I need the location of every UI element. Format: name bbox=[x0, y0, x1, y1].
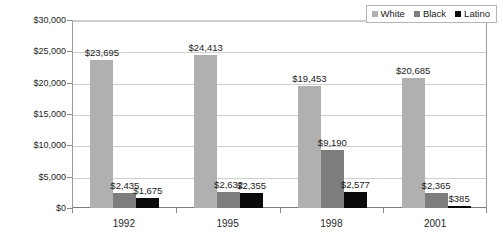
legend-item-latino[interactable]: Latino bbox=[455, 9, 490, 19]
bar-value-label: $2,365 bbox=[415, 180, 458, 191]
bar-value-label: $9,190 bbox=[311, 137, 354, 148]
legend-item-black[interactable]: Black bbox=[414, 9, 446, 19]
bar-value-label: $385 bbox=[438, 193, 481, 204]
x-axis-label-1995: 1995 bbox=[176, 218, 280, 229]
x-axis-label-1998: 1998 bbox=[280, 218, 384, 229]
bar-latino-1998[interactable] bbox=[344, 192, 367, 208]
bar-value-label: $20,685 bbox=[392, 65, 435, 76]
bar-value-label: $19,453 bbox=[288, 73, 331, 84]
x-axis-tick-mark bbox=[72, 208, 73, 213]
legend-swatch-icon bbox=[455, 11, 461, 17]
bar-group: $24,413$2,632$2,355 bbox=[177, 21, 281, 208]
legend-label: Latino bbox=[464, 9, 490, 19]
x-axis-tick-mark bbox=[176, 208, 177, 213]
legend: WhiteBlackLatino bbox=[366, 5, 497, 23]
y-axis: $0$5,000$10,000$15,000$20,000$25,000$30,… bbox=[0, 20, 72, 208]
bar-latino-1995[interactable] bbox=[240, 193, 263, 208]
legend-swatch-icon bbox=[414, 11, 420, 17]
y-axis-tick-label: $0 bbox=[0, 203, 66, 213]
legend-swatch-icon bbox=[372, 11, 378, 17]
plot-area: $23,695$2,435$1,675$24,413$2,632$2,355$1… bbox=[72, 20, 487, 208]
legend-label: White bbox=[381, 9, 405, 19]
y-axis-tick-label: $30,000 bbox=[0, 15, 66, 25]
bar-group: $23,695$2,435$1,675 bbox=[73, 21, 177, 208]
legend-item-white[interactable]: White bbox=[372, 9, 405, 19]
bar-black-1995[interactable] bbox=[217, 192, 240, 208]
bar-latino-1992[interactable] bbox=[136, 198, 159, 208]
x-axis-label-2001: 2001 bbox=[383, 218, 487, 229]
y-axis-tick-label: $10,000 bbox=[0, 140, 66, 150]
bar-group: $19,453$9,190$2,577 bbox=[281, 21, 385, 208]
x-axis-label-1992: 1992 bbox=[72, 218, 176, 229]
x-axis-tick-mark bbox=[486, 208, 487, 213]
bar-group: $20,685$2,365$385 bbox=[384, 21, 488, 208]
x-axis-tick-mark bbox=[383, 208, 384, 213]
y-axis-tick-label: $15,000 bbox=[0, 109, 66, 119]
bar-value-label: $23,695 bbox=[80, 47, 123, 58]
bar-value-label: $2,355 bbox=[230, 180, 273, 191]
bar-value-label: $2,577 bbox=[334, 179, 377, 190]
bar-value-label: $24,413 bbox=[184, 42, 227, 53]
legend-label: Black bbox=[423, 9, 446, 19]
y-axis-tick-label: $5,000 bbox=[0, 172, 66, 182]
bar-value-label: $1,675 bbox=[126, 185, 169, 196]
y-axis-tick-label: $25,000 bbox=[0, 46, 66, 56]
x-axis: 1992199519982001 bbox=[72, 208, 487, 241]
bar-chart: $0$5,000$10,000$15,000$20,000$25,000$30,… bbox=[0, 0, 503, 241]
x-axis-tick-mark bbox=[280, 208, 281, 213]
y-axis-tick-label: $20,000 bbox=[0, 78, 66, 88]
